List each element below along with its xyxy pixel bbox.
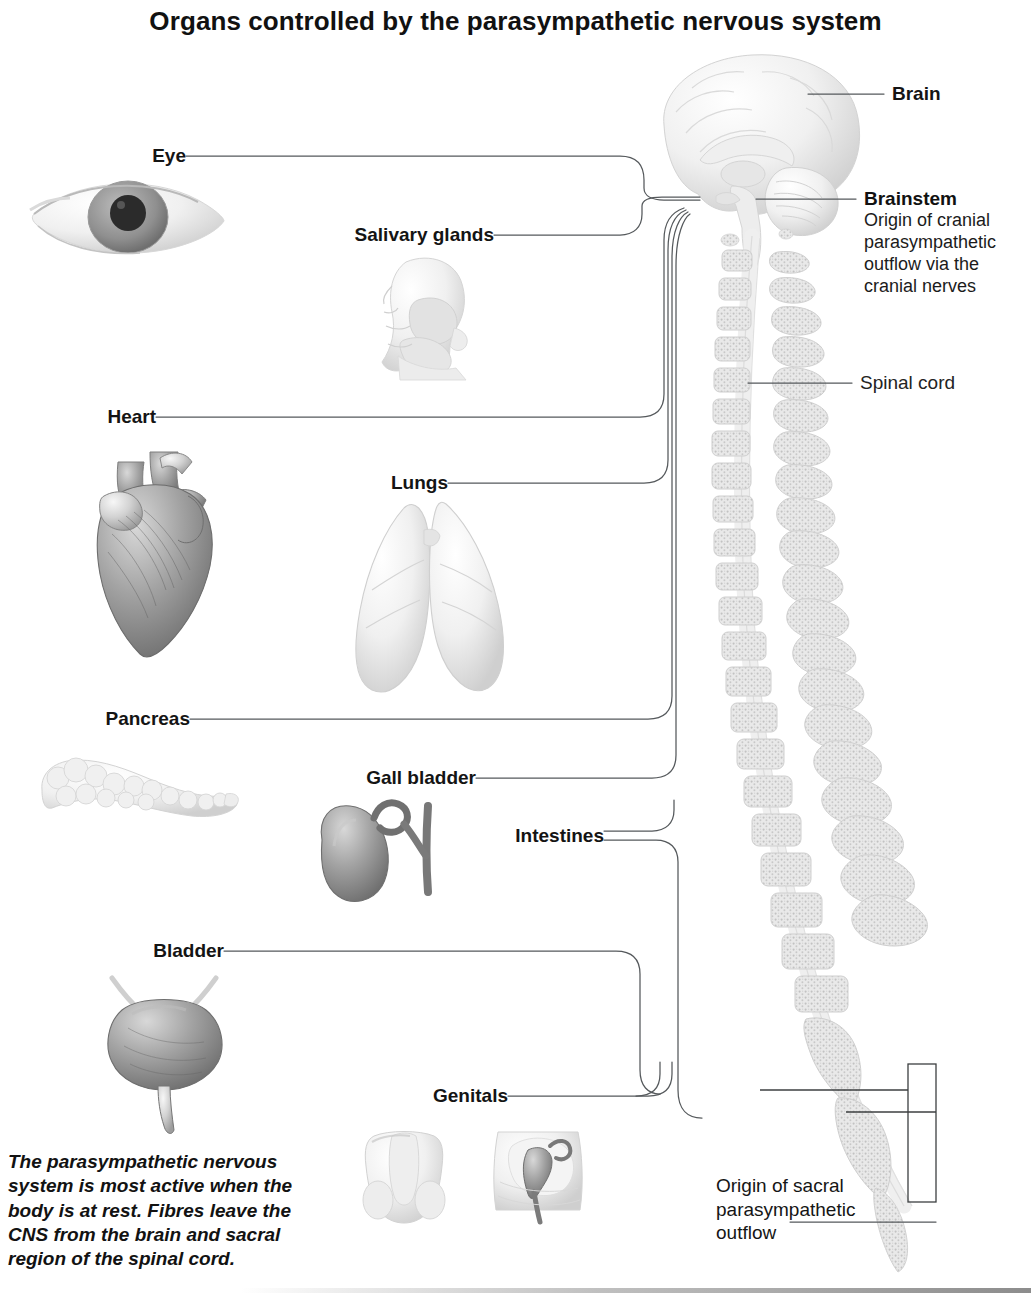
label-brainstem-description: Origin of cranial parasympathetic outflo… <box>864 210 1024 298</box>
label-gall-bladder: Gall bladder <box>366 767 476 789</box>
label-eye: Eye <box>152 145 186 167</box>
label-sacral-outflow: Origin of sacral parasympathetic outflow <box>716 1173 896 1245</box>
label-intestines: Intestines <box>515 825 604 847</box>
page-edge-rule <box>240 1288 1031 1293</box>
page-title: Organs controlled by the parasympathetic… <box>0 6 1031 37</box>
label-sacral-outflow-text: Origin of sacral parasympathetic outflow <box>716 1174 896 1245</box>
figure-caption: The parasympathetic nervous system is mo… <box>8 1150 318 1272</box>
label-brain: Brain <box>892 83 941 105</box>
label-spinal-cord: Spinal cord <box>860 372 955 394</box>
label-pancreas: Pancreas <box>105 708 190 730</box>
label-lungs: Lungs <box>391 472 448 494</box>
label-heart: Heart <box>107 406 156 428</box>
label-salivary-glands: Salivary glands <box>355 224 494 246</box>
label-brainstem-heading: Brainstem <box>864 188 1024 209</box>
diagram-canvas: Organs controlled by the parasympathetic… <box>0 0 1031 1302</box>
label-genitals: Genitals <box>433 1085 508 1107</box>
label-brainstem: Brainstem Origin of cranial parasympathe… <box>864 188 1024 298</box>
label-bladder: Bladder <box>153 940 224 962</box>
